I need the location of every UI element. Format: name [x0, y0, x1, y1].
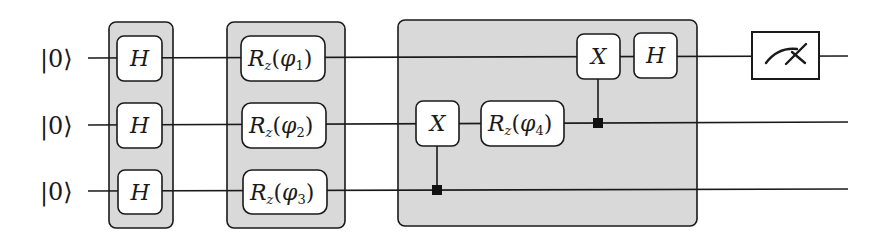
control-dot-q1	[593, 118, 603, 128]
gate-h-q2: H	[118, 170, 162, 214]
gate-h-q0-final: H	[634, 33, 677, 78]
qubit-label-1: |0⟩	[40, 112, 73, 141]
wire-q0	[88, 56, 848, 58]
gate-rz-q0: Rz(φ1)	[241, 36, 325, 81]
gate-x-q1: X	[416, 101, 459, 146]
wire-q2	[88, 189, 848, 191]
svg-text:H: H	[129, 46, 150, 71]
gate-rz-q1-phi4: Rz(φ4)	[481, 101, 564, 146]
qubit-label-0: |0⟩	[40, 45, 73, 74]
gate-x-q0: X	[577, 34, 620, 79]
gate-h-q0: H	[117, 36, 162, 81]
quantum-circuit: |0⟩ |0⟩ |0⟩ H H H Rz(φ1) Rz(φ2) Rz(φ3) X…	[0, 0, 890, 239]
qubit-label-2: |0⟩	[40, 178, 73, 207]
svg-text:H: H	[645, 43, 666, 68]
gate-rz-q2: Rz(φ3)	[243, 170, 327, 214]
control-dot-q2	[432, 185, 442, 195]
gate-h-q1: H	[117, 103, 162, 148]
svg-text:X: X	[589, 44, 608, 69]
svg-text:X: X	[428, 111, 447, 136]
svg-text:H: H	[129, 180, 150, 205]
svg-text:H: H	[129, 113, 150, 138]
gate-rz-q1: Rz(φ2)	[242, 103, 326, 148]
measurement-q0	[752, 32, 819, 79]
